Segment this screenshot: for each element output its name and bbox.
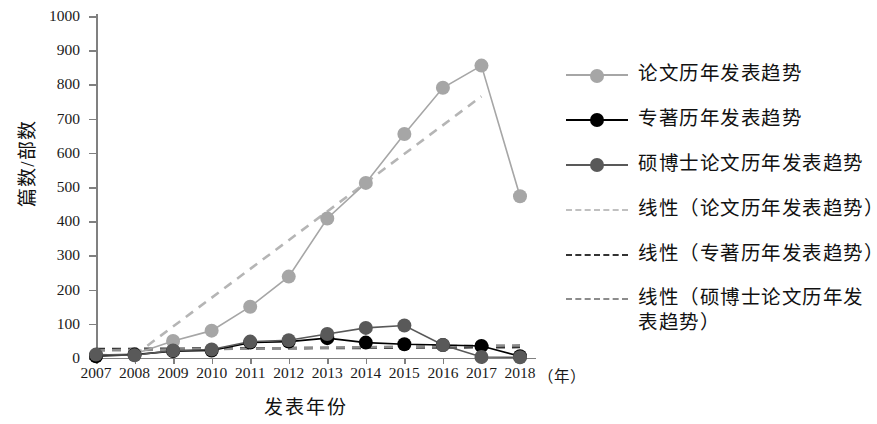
legend-marker-trend-papers [566,199,628,221]
data-point [474,59,488,73]
data-point [282,333,296,347]
legend-marker-trend-theses [566,288,628,310]
data-point [436,81,450,95]
data-point [243,335,257,349]
legend-marker-theses [566,154,628,176]
series-line [96,326,520,358]
data-point [436,338,450,352]
trendline [135,96,482,355]
series-line [96,66,520,356]
legend-item-theses[interactable]: 硕博士论文历年发表趋势 [566,152,877,176]
data-point [243,300,257,314]
data-point [397,319,411,333]
legend-label-trend-theses: 线性（硕博士论文历年发表趋势） [638,286,864,335]
data-point [513,350,527,364]
data-point [397,337,411,351]
legend-label-trend-theses-line1: 线性（硕博士论文历年发 [638,287,864,308]
legend-label-trend-monographs: 线性（专著历年发表趋势） [638,242,877,266]
legend-item-papers[interactable]: 论文历年发表趋势 [566,62,877,86]
data-point [89,348,103,362]
legend-marker-trend-monographs [566,244,628,266]
legend-marker-papers [566,64,628,86]
legend-label-trend-theses-line2: 表趋势） [638,312,720,333]
data-point [166,343,180,357]
legend-label-theses: 硕博士论文历年发表趋势 [638,152,864,176]
data-point [359,176,373,190]
legend-marker-monographs [566,109,628,131]
data-point [359,321,373,335]
legend-label-papers: 论文历年发表趋势 [638,62,802,86]
data-point [205,324,219,338]
line-chart: 篇数/部数 10009008007006005004003002001000 2… [0,0,877,424]
data-point [513,189,527,203]
legend-item-trend-papers[interactable]: 线性（论文历年发表趋势） [566,197,877,221]
legend-item-trend-monographs[interactable]: 线性（专著历年发表趋势） [566,242,877,266]
data-point [205,342,219,356]
legend-item-monographs[interactable]: 专著历年发表趋势 [566,107,877,131]
legend-label-monographs: 专著历年发表趋势 [638,107,802,131]
legend-label-trend-papers: 线性（论文历年发表趋势） [638,197,877,221]
chart-legend: 论文历年发表趋势 专著历年发表趋势 硕博士论文历年发表趋势 线性（论文历年发表趋… [566,62,877,356]
data-point [320,327,334,341]
data-point [320,211,334,225]
data-point [128,348,142,362]
data-point [474,350,488,364]
data-point [359,336,373,350]
legend-item-trend-theses[interactable]: 线性（硕博士论文历年发表趋势） [566,286,877,335]
data-point [397,127,411,141]
data-point [282,270,296,284]
